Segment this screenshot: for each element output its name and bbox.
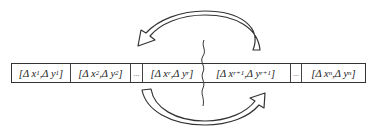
sequence-swap-diagram: [Δ x1,Δ y1] [Δ x2,Δ y2] ... [Δ xr,Δ yr] … [0,0,370,134]
top-curved-arrow-icon [138,11,260,50]
bottom-curved-arrow-icon [142,89,265,125]
arrows-layer [0,0,370,134]
split-line-icon [202,40,205,106]
